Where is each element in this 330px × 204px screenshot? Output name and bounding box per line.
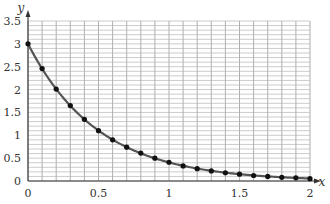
data-point xyxy=(279,175,284,180)
y-tick-label: 2 xyxy=(14,84,21,97)
data-point xyxy=(25,41,30,46)
x-tick-label: 0 xyxy=(25,187,32,200)
y-tick-label: 3.5 xyxy=(4,15,22,28)
x-axis-label: x xyxy=(319,175,326,189)
y-tick-label: 0 xyxy=(14,175,21,188)
line-chart: 00.511.5200.511.522.533.5 x y xyxy=(0,0,330,204)
data-point xyxy=(293,175,298,180)
y-tick-label: 1 xyxy=(14,129,21,142)
data-point xyxy=(223,170,228,175)
data-point xyxy=(82,117,87,122)
data-point xyxy=(166,160,171,165)
axes xyxy=(26,10,322,184)
data-point xyxy=(124,145,129,150)
data-point xyxy=(138,151,143,156)
data-point xyxy=(307,176,312,181)
y-tick-label: 0.5 xyxy=(4,152,22,165)
x-tick-label: 1.5 xyxy=(231,187,249,200)
data-point xyxy=(237,172,242,177)
y-axis-label: y xyxy=(17,1,25,15)
data-point xyxy=(209,168,214,173)
y-tick-label: 3 xyxy=(14,38,21,51)
y-axis-arrow-icon xyxy=(26,10,31,17)
x-tick-label: 2 xyxy=(307,187,314,200)
tick-labels: 00.511.5200.511.522.533.5 xyxy=(4,15,314,200)
data-point xyxy=(40,66,45,71)
y-tick-label: 2.5 xyxy=(4,61,22,74)
grid-lines xyxy=(28,21,310,181)
data-point xyxy=(68,103,73,108)
x-tick-label: 1 xyxy=(166,187,173,200)
data-point xyxy=(251,173,256,178)
data-point xyxy=(96,128,101,133)
y-tick-label: 1.5 xyxy=(4,106,22,119)
data-point xyxy=(152,156,157,161)
data-point xyxy=(265,174,270,179)
data-point xyxy=(110,137,115,142)
data-point xyxy=(54,87,59,92)
x-tick-label: 0.5 xyxy=(90,187,108,200)
data-point xyxy=(195,166,200,171)
data-point xyxy=(181,163,186,168)
